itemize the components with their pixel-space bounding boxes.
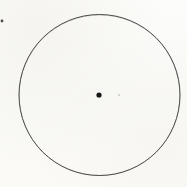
- left-edge-speck: [1, 20, 4, 23]
- geometry-figure: [0, 0, 187, 187]
- figure-canvas: Circle with marked centre point A single…: [0, 0, 187, 187]
- center-point: [96, 92, 101, 97]
- faint-speck: [118, 94, 120, 96]
